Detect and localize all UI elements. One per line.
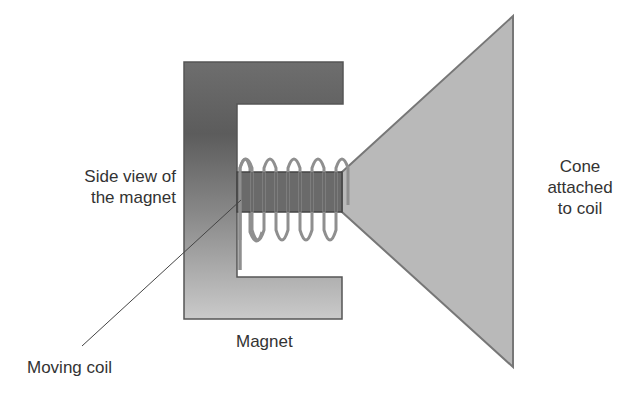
loudspeaker-diagram: Side view of the magnet Cone attached to… [0,0,642,396]
side-view-label-line2: the magnet [84,187,176,208]
cone-label-line2: attached [520,177,640,198]
side-view-label-line1: Side view of [84,166,176,187]
side-view-label: Side view of the magnet [84,166,176,208]
cone-label: Cone attached to coil [520,156,640,219]
cone-label-line3: to coil [520,198,640,219]
moving-coil-label: Moving coil [27,357,112,378]
cone-label-line1: Cone [520,156,640,177]
speaker-cone [342,16,513,367]
magnet-label: Magnet [236,331,293,352]
